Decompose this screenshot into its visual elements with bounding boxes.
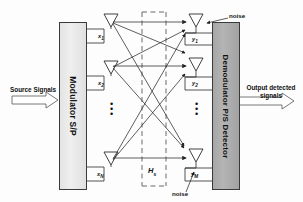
output-label-line2: signals — [260, 92, 282, 99]
tx-port-stubs — [85, 29, 104, 181]
diagram-canvas: Modulator S/P Demodulator P/S Detector S… — [0, 0, 303, 202]
path-h32 — [113, 74, 185, 160]
source-signals-label: Source Signals — [10, 86, 56, 93]
rx-port-sub-2: 2 — [195, 83, 198, 88]
rx-port-sub-1: 1 — [195, 39, 198, 44]
tx-port-sub-2: 2 — [101, 83, 104, 88]
demodulator-block[interactable]: Demodulator P/S Detector — [212, 22, 240, 190]
rx-ellipsis-dot-3: • — [195, 112, 198, 117]
rx-antenna-3 — [189, 149, 203, 162]
path-h23 — [113, 68, 184, 148]
tx-port-label-3: xN — [97, 171, 104, 179]
channel-matrix-box — [142, 12, 166, 186]
rx-port-label-2: y2 — [192, 80, 198, 88]
modulator-block[interactable]: Modulator S/P — [59, 22, 87, 190]
rx-port-label-1: y1 — [192, 36, 198, 44]
tx-antenna-2 — [104, 61, 118, 74]
rx-antenna-2 — [189, 58, 203, 71]
modulator-block-label: Modulator S/P — [68, 76, 78, 136]
channel-matrix-label: Hs — [148, 166, 156, 177]
rx-port-stubs — [185, 33, 212, 181]
tx-antenna-1 — [104, 14, 118, 27]
tx-ellipsis-dot-3: • — [110, 112, 113, 117]
rx-port-label-3: yM — [191, 171, 198, 179]
rx-port-sub-3: M — [194, 174, 198, 179]
demodulator-block-label: Demodulator P/S Detector — [222, 54, 231, 158]
source-signal-arrow — [12, 92, 58, 108]
rx-antenna-1 — [189, 14, 203, 27]
output-signals-label: Output detected signals — [243, 84, 299, 100]
tx-port-label-2: x2 — [98, 80, 104, 88]
noise-label-top: noise — [229, 12, 245, 19]
tx-antennas — [104, 14, 118, 165]
tx-port-label-1: x1 — [98, 33, 104, 41]
rx-ellipsis: • • • — [195, 102, 198, 117]
noise-label-bottom: noise — [172, 190, 188, 197]
output-label-line1: Output detected — [247, 84, 296, 91]
tx-port-sub-1: 1 — [101, 36, 104, 41]
channel-subscript: s — [153, 171, 156, 177]
path-h31 — [113, 34, 185, 159]
tx-port-sub-3: N — [100, 174, 103, 179]
tx-ellipsis: • • • — [110, 102, 113, 117]
channel-paths-cross — [113, 23, 185, 160]
path-h13 — [113, 24, 184, 146]
